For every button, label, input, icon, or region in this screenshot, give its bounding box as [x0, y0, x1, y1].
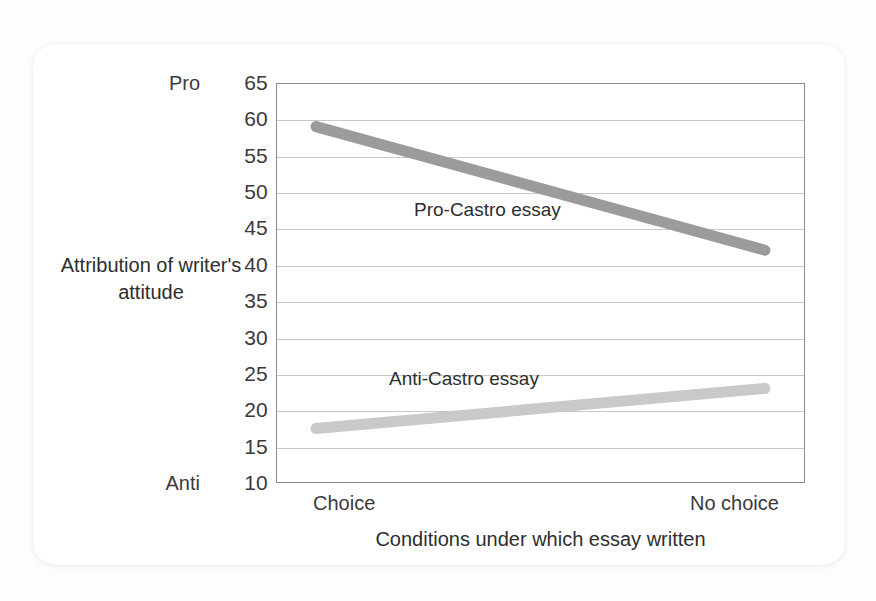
y-axis-tick-label: 10 — [222, 471, 268, 495]
y-axis-tick-label: 60 — [222, 107, 268, 131]
x-axis-tick-no-choice: No choice — [690, 492, 779, 515]
y-axis-title: Attribution of writer's attitude — [60, 252, 242, 306]
series-label-anti-castro: Anti-Castro essay — [389, 368, 539, 390]
y-axis-tick-label: 25 — [222, 362, 268, 386]
y-axis-tick-label: 20 — [222, 398, 268, 422]
x-axis-title: Conditions under which essay written — [276, 528, 805, 551]
data-series-layer — [276, 83, 805, 483]
screenshot-stage: Pro Anti 656055504540353025201510 Attrib… — [0, 0, 876, 601]
y-axis-tick-label: 50 — [222, 180, 268, 204]
y-axis-tick-label: 55 — [222, 144, 268, 168]
data-series-line — [316, 388, 765, 428]
line-chart-figure: Pro Anti 656055504540353025201510 Attrib… — [0, 0, 876, 601]
y-axis-tick-label: 65 — [222, 71, 268, 95]
x-axis-tick-choice: Choice — [313, 492, 375, 515]
y-anchor-low-label: Anti — [80, 472, 200, 495]
y-axis-tick-label: 15 — [222, 435, 268, 459]
y-axis-tick-label: 30 — [222, 326, 268, 350]
series-label-pro-castro: Pro-Castro essay — [414, 199, 561, 221]
y-anchor-high-label: Pro — [80, 72, 200, 95]
y-axis-tick-label: 45 — [222, 216, 268, 240]
data-series-line — [316, 127, 765, 251]
